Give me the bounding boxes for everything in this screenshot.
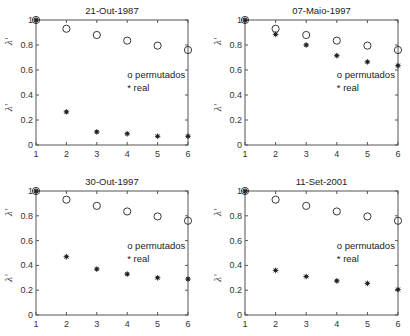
- circle-marker: [154, 213, 161, 220]
- y-tick-label: 0.6: [229, 236, 242, 246]
- star-marker: [365, 59, 371, 65]
- y-tick-label: 0.4: [229, 90, 242, 100]
- x-tick-label: 1: [242, 319, 247, 329]
- x-tick-label: 5: [155, 319, 160, 329]
- x-tick-label: 1: [33, 149, 38, 159]
- y-tick-label: 0.4: [20, 90, 33, 100]
- star-marker: [273, 268, 279, 274]
- x-tick-label: 6: [395, 319, 400, 329]
- x-tick-label: 3: [304, 149, 309, 159]
- subplot-2: 07-Maio-199712345600.20.40.60.81λ'λ'o pe…: [213, 5, 402, 159]
- star-marker: [334, 53, 340, 59]
- x-tick-label: 6: [395, 149, 400, 159]
- y-axis-label-bottom: λ': [4, 103, 14, 112]
- axes-box: [245, 20, 398, 145]
- axes-box: [36, 191, 188, 315]
- y-tick-label: 0.6: [20, 236, 33, 246]
- x-tick-label: 5: [365, 319, 370, 329]
- star-marker: [94, 129, 100, 135]
- y-tick-label: 0.4: [20, 260, 33, 270]
- star-marker: [395, 63, 401, 69]
- legend-entry: * real: [127, 82, 149, 93]
- series-real: [33, 188, 191, 282]
- series-permutados: [32, 187, 191, 224]
- series-permutados: [241, 16, 401, 53]
- subplot-4: 11-Set-200112345600.20.40.60.81λ'λ'o per…: [213, 176, 402, 329]
- x-tick-label: 6: [185, 149, 190, 159]
- star-marker: [273, 32, 279, 38]
- x-tick-label: 3: [94, 149, 99, 159]
- star-marker: [242, 17, 248, 23]
- legend-entry: * real: [337, 82, 359, 93]
- legend-entry: * real: [337, 253, 359, 264]
- y-tick-label: 0: [237, 310, 242, 320]
- circle-marker: [333, 37, 340, 44]
- star-marker: [303, 42, 309, 48]
- star-marker: [64, 109, 70, 115]
- x-tick-label: 6: [185, 319, 190, 329]
- x-tick-label: 5: [365, 149, 370, 159]
- y-axis-label-bottom: λ': [213, 274, 223, 283]
- x-tick-label: 5: [155, 149, 160, 159]
- y-tick-label: 0.2: [20, 115, 33, 125]
- circle-marker: [272, 25, 279, 32]
- axes-box: [245, 191, 398, 315]
- series-permutados: [32, 16, 191, 53]
- figure: 21-Out-198712345600.20.40.60.81λ'λ'o per…: [0, 0, 410, 336]
- x-tick-label: 4: [334, 149, 339, 159]
- star-marker: [395, 287, 401, 293]
- circle-marker: [154, 42, 161, 49]
- circle-marker: [124, 37, 131, 44]
- star-marker: [94, 266, 100, 272]
- circle-marker: [364, 213, 371, 220]
- y-axis-label-top: λ': [4, 208, 14, 217]
- y-axis-label-bottom: λ': [213, 103, 223, 112]
- star-marker: [155, 275, 161, 281]
- legend-entry: o permutados: [127, 69, 185, 80]
- star-marker: [303, 274, 309, 280]
- x-tick-label: 3: [94, 319, 99, 329]
- x-tick-label: 4: [334, 319, 339, 329]
- legend-entry: o permutados: [127, 240, 185, 251]
- x-tick-label: 2: [273, 319, 278, 329]
- circle-marker: [272, 196, 279, 203]
- subplot-1: 21-Out-198712345600.20.40.60.81λ'λ'o per…: [4, 5, 192, 159]
- legend-entry: o permutados: [337, 240, 395, 251]
- star-marker: [124, 131, 130, 137]
- x-tick-label: 1: [33, 319, 38, 329]
- circle-marker: [63, 196, 70, 203]
- y-tick-label: 0: [28, 140, 33, 150]
- y-axis-label-bottom: λ': [4, 274, 14, 283]
- circle-marker: [93, 202, 100, 209]
- x-tick-label: 3: [304, 319, 309, 329]
- star-marker: [334, 278, 340, 284]
- x-tick-label: 1: [242, 149, 247, 159]
- subplot-title: 11-Set-2001: [296, 176, 348, 187]
- y-tick-label: 0.8: [20, 211, 33, 221]
- x-tick-label: 4: [125, 319, 130, 329]
- star-marker: [64, 254, 70, 260]
- series-real: [242, 17, 401, 68]
- y-tick-label: 0.8: [229, 40, 242, 50]
- y-tick-label: 0.8: [229, 211, 242, 221]
- legend-entry: o permutados: [337, 69, 395, 80]
- x-tick-label: 4: [125, 149, 130, 159]
- star-marker: [185, 276, 191, 282]
- x-tick-label: 2: [273, 149, 278, 159]
- circle-marker: [93, 31, 100, 38]
- y-tick-label: 0.4: [229, 260, 242, 270]
- star-marker: [242, 188, 248, 194]
- star-marker: [185, 133, 191, 139]
- x-tick-label: 2: [64, 319, 69, 329]
- circle-marker: [364, 42, 371, 49]
- star-marker: [365, 281, 371, 287]
- y-axis-label-top: λ': [4, 37, 14, 46]
- y-tick-label: 0.6: [20, 65, 33, 75]
- series-permutados: [241, 187, 401, 224]
- star-marker: [124, 271, 130, 277]
- subplot-3: 30-Out-199712345600.20.40.60.81λ'λ'o per…: [4, 176, 192, 329]
- y-tick-label: 0.6: [229, 65, 242, 75]
- y-tick-label: 0: [28, 310, 33, 320]
- circle-marker: [303, 31, 310, 38]
- y-axis-label-top: λ': [213, 37, 223, 46]
